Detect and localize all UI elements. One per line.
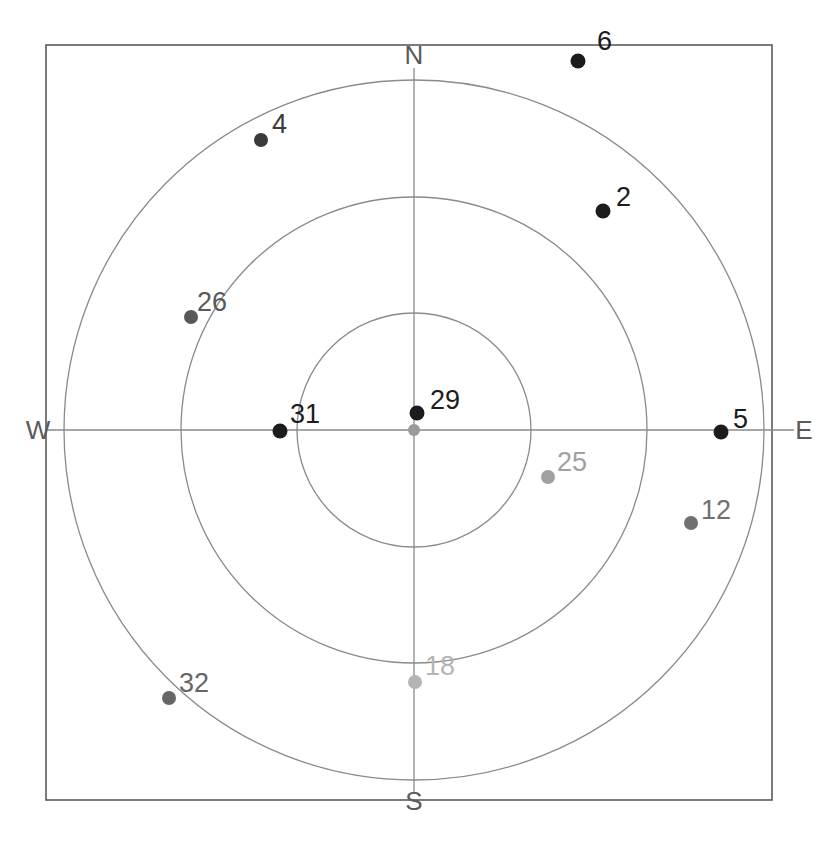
- satellite-label-26: 26: [197, 287, 227, 317]
- satellite-dot-25[interactable]: [541, 470, 555, 484]
- satellite-dot-32[interactable]: [162, 691, 176, 705]
- satellite-label-29: 29: [430, 385, 460, 415]
- satellite-marker-32[interactable]: 32: [162, 668, 209, 705]
- satellite-marker-5[interactable]: 5: [714, 404, 749, 440]
- satellite-label-6: 6: [597, 26, 612, 56]
- satellite-dot-2[interactable]: [596, 204, 611, 219]
- skyplot-chart: NSWE 642262931525121832: [0, 0, 819, 841]
- satellite-label-32: 32: [179, 668, 209, 698]
- compass-label-west: W: [26, 415, 51, 445]
- plot-border: [46, 45, 772, 800]
- skyplot-canvas: NSWE 642262931525121832: [0, 0, 819, 841]
- plot-frame: [46, 45, 772, 800]
- satellite-marker-12[interactable]: 12: [684, 495, 731, 530]
- satellite-marker-18[interactable]: 18: [408, 651, 455, 689]
- compass-label-east: E: [795, 415, 812, 445]
- satellite-label-31: 31: [290, 399, 320, 429]
- satellite-dot-12[interactable]: [684, 516, 698, 530]
- satellite-marker-31[interactable]: 31: [273, 399, 321, 439]
- satellite-marker-25[interactable]: 25: [541, 447, 587, 484]
- satellite-dot-18[interactable]: [408, 675, 422, 689]
- compass-label-south: S: [405, 786, 422, 816]
- satellite-marker-2[interactable]: 2: [596, 182, 632, 219]
- satellite-points: 642262931525121832: [162, 26, 748, 705]
- satellite-dot-29[interactable]: [410, 406, 425, 421]
- satellite-label-18: 18: [425, 651, 455, 681]
- compass-label-north: N: [405, 40, 424, 70]
- satellite-dot-5[interactable]: [714, 425, 729, 440]
- satellite-dot-4[interactable]: [254, 133, 268, 147]
- satellite-label-2: 2: [616, 182, 631, 212]
- satellite-label-4: 4: [272, 109, 287, 139]
- satellite-marker-26[interactable]: 26: [184, 287, 227, 324]
- satellite-marker-29[interactable]: 29: [410, 385, 461, 421]
- satellite-label-12: 12: [701, 495, 731, 525]
- satellite-label-25: 25: [557, 447, 587, 477]
- satellite-dot-26[interactable]: [184, 310, 198, 324]
- satellite-dot-6[interactable]: [571, 54, 586, 69]
- zenith-marker: [408, 424, 420, 436]
- satellite-marker-6[interactable]: 6: [571, 26, 613, 69]
- satellite-marker-4[interactable]: 4: [254, 109, 287, 147]
- satellite-dot-31[interactable]: [273, 424, 288, 439]
- satellite-label-5: 5: [733, 404, 748, 434]
